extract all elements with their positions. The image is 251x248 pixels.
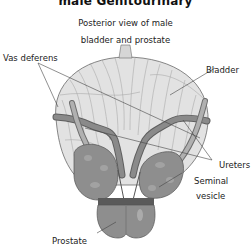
label-seminal-vesicle-line2: vesicle (196, 189, 225, 203)
label-prostate: Prostate (52, 234, 87, 248)
label-vas-deferens: Vas deferens (3, 51, 58, 65)
prostate (97, 198, 155, 238)
label-bladder: Bladder (206, 63, 239, 77)
label-seminal-vesicle-line1: Seminal (194, 174, 228, 188)
label-ureters: Ureters (219, 158, 250, 172)
